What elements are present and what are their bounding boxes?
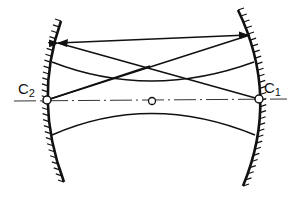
resonator-diagram	[0, 0, 300, 200]
ray-x-2	[58, 43, 259, 99]
hatch-mark	[55, 19, 61, 21]
label-c2: C2	[18, 80, 35, 99]
label-c1-main: C	[264, 79, 275, 96]
upper-beam-curve	[52, 62, 254, 81]
center-point	[149, 98, 156, 105]
double-arrow-ray	[58, 35, 248, 43]
label-c2-sub: 2	[29, 87, 35, 99]
lower-beam-curve	[52, 114, 255, 136]
label-c1: C1	[264, 79, 281, 98]
point-c2	[43, 96, 51, 104]
label-c1-sub: 1	[275, 86, 281, 98]
label-c2-main: C	[18, 80, 29, 97]
point-c1	[255, 95, 263, 103]
hatch-mark	[238, 8, 244, 10]
